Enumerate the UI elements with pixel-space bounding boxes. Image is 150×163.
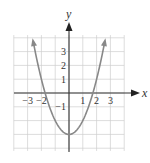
y-tick-label: 3: [61, 46, 66, 57]
parabola-graph: −3−2123321−1 x y: [0, 0, 150, 163]
y-tick-label: 2: [61, 60, 66, 71]
y-axis-label: y: [65, 7, 72, 21]
y-axis-arrow-icon: [66, 22, 73, 31]
x-tick-label: 1: [80, 95, 85, 106]
curve-right-arrow-icon: [101, 38, 107, 46]
x-tick-label: −3: [22, 95, 33, 106]
x-tick-label: −2: [36, 95, 47, 106]
y-tick-label: 1: [61, 74, 66, 85]
curve-left-arrow-icon: [31, 38, 37, 46]
x-axis-arrow-icon: [131, 90, 140, 97]
y-tick-label: −1: [55, 101, 66, 112]
x-tick-label: 3: [108, 95, 113, 106]
x-tick-label: 2: [94, 95, 99, 106]
x-axis-label: x: [141, 86, 148, 100]
